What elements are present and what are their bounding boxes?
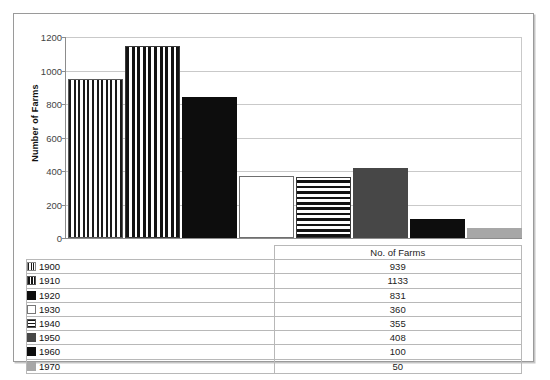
legend-item-1960[interactable]: 1960 (27, 345, 275, 359)
y-tickmark-800 (62, 104, 66, 105)
legend-swatch-icon-1930 (27, 305, 36, 314)
legend-swatch-icon-1940 (27, 319, 36, 328)
legend-item-1900[interactable]: 1900 (27, 260, 275, 274)
y-tick-label-800: 800 (28, 99, 62, 110)
table-value-1950: 408 (274, 331, 522, 345)
y-tickmark-600 (62, 138, 66, 139)
y-tick-label-600: 600 (28, 132, 62, 143)
y-axis-tick-labels: 120010008006004002000 (26, 14, 62, 246)
legend-row-inner: 1930 (27, 304, 274, 315)
legend-row-inner: 1920 (27, 290, 274, 301)
table-value-1960: 100 (274, 345, 522, 359)
y-tick-label-400: 400 (28, 166, 62, 177)
legend-swatch-icon-1920 (27, 291, 36, 300)
legend-label-1950: 1950 (39, 332, 60, 343)
legend-label-1910: 1910 (39, 275, 60, 286)
bar-1900 (68, 79, 123, 238)
legend-label-1970: 1970 (39, 361, 60, 372)
table-value-1940: 355 (274, 316, 522, 330)
y-tick-label-200: 200 (28, 199, 62, 210)
legend-item-1940[interactable]: 1940 (27, 316, 275, 330)
table-row[interactable]: 1900939 (27, 260, 522, 274)
y-tickmark-400 (62, 171, 66, 172)
legend-label-1900: 1900 (39, 261, 60, 272)
bar-series (66, 37, 522, 238)
data-table: No. of Farms1900939191011331920831193036… (26, 245, 522, 374)
legend-item-1950[interactable]: 1950 (27, 331, 275, 345)
legend-swatch-icon-1970 (27, 362, 36, 371)
bar-1920 (182, 97, 237, 238)
legend-row-inner: 1940 (27, 318, 274, 329)
bar-1930 (239, 176, 294, 238)
bar-1950 (353, 168, 408, 238)
bar-1910 (125, 46, 180, 238)
legend-item-1910[interactable]: 1910 (27, 274, 275, 288)
bar-1960 (410, 219, 465, 238)
table-row[interactable]: 19101133 (27, 274, 522, 288)
legend-row-inner: 1900 (27, 261, 274, 272)
y-tickmark-1200 (62, 37, 66, 38)
y-tickmark-1000 (62, 71, 66, 72)
data-table-region: No. of Farms1900939191011331920831193036… (26, 245, 522, 374)
table-header-row: No. of Farms (27, 246, 522, 260)
table-value-1910: 1133 (274, 274, 522, 288)
y-tick-label-1200: 1200 (28, 32, 62, 43)
table-row[interactable]: 1950408 (27, 331, 522, 345)
bar-1940 (296, 177, 351, 238)
legend-label-1940: 1940 (39, 318, 60, 329)
table-value-1930: 360 (274, 302, 522, 316)
legend-item-1920[interactable]: 1920 (27, 288, 275, 302)
y-tick-label-1000: 1000 (28, 65, 62, 76)
table-header-key-cell (27, 246, 275, 260)
legend-swatch-icon-1960 (27, 347, 36, 356)
legend-label-1930: 1930 (39, 304, 60, 315)
table-row[interactable]: 1930360 (27, 302, 522, 316)
table-row[interactable]: 1960100 (27, 345, 522, 359)
chart-plot-region: Number of Farms 120010008006004002000 (14, 14, 533, 246)
legend-swatch-icon-1950 (27, 333, 36, 342)
legend-swatch-icon-1900 (27, 262, 36, 271)
table-row[interactable]: 1920831 (27, 288, 522, 302)
legend-swatch-icon-1910 (27, 276, 36, 285)
legend-label-1960: 1960 (39, 346, 60, 357)
y-tick-label-0: 0 (28, 233, 62, 244)
legend-row-inner: 1910 (27, 275, 274, 286)
table-row[interactable]: 1940355 (27, 316, 522, 330)
table-header-value-cell: No. of Farms (274, 246, 522, 260)
legend-label-1920: 1920 (39, 290, 60, 301)
legend-item-1930[interactable]: 1930 (27, 302, 275, 316)
plot-area (65, 37, 522, 239)
bar-1970 (467, 228, 522, 238)
y-tickmark-200 (62, 205, 66, 206)
table-row[interactable]: 197050 (27, 359, 522, 373)
table-value-1900: 939 (274, 260, 522, 274)
table-value-1920: 831 (274, 288, 522, 302)
legend-row-inner: 1960 (27, 346, 274, 357)
legend-row-inner: 1970 (27, 361, 274, 372)
legend-item-1970[interactable]: 1970 (27, 359, 275, 373)
table-value-1970: 50 (274, 359, 522, 373)
chart-frame: Number of Farms 120010008006004002000 No… (13, 13, 534, 362)
legend-row-inner: 1950 (27, 332, 274, 343)
y-tickmark-0 (62, 238, 66, 239)
